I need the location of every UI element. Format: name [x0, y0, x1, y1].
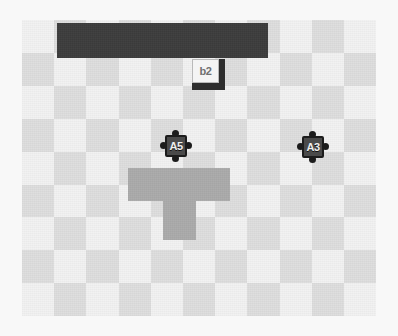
grid-cell[interactable] [280, 185, 313, 219]
grid-cell[interactable] [344, 283, 376, 316]
grid-cell[interactable] [119, 283, 152, 316]
grid-cell[interactable] [247, 119, 280, 153]
center-cross-region-tile[interactable] [128, 168, 163, 201]
grid-cell[interactable] [22, 86, 55, 120]
grid-cell[interactable] [86, 86, 119, 120]
grid-cell[interactable] [86, 152, 119, 186]
grid-cell[interactable] [215, 119, 248, 153]
token-body: A3 [302, 136, 324, 158]
grid-cell[interactable] [247, 250, 280, 284]
grid-cell[interactable] [344, 217, 376, 251]
grid-cell[interactable] [247, 217, 280, 251]
grid-cell[interactable] [22, 119, 55, 153]
token-body: A5 [165, 135, 187, 157]
grid-cell[interactable] [119, 250, 152, 284]
grid-cell[interactable] [151, 250, 184, 284]
grid-cell[interactable] [54, 217, 87, 251]
grid-cell[interactable] [86, 119, 119, 153]
grid-cell[interactable] [22, 185, 55, 219]
grid-cell[interactable] [344, 20, 376, 54]
grid-cell[interactable] [312, 185, 345, 219]
grid-cell[interactable] [54, 250, 87, 284]
grid-cell[interactable] [247, 86, 280, 120]
center-cross-region-tile[interactable] [163, 201, 196, 240]
grid-cell[interactable] [344, 250, 376, 284]
game-scene: b2 A5A3 [0, 0, 398, 336]
grid-cell[interactable] [280, 53, 313, 87]
grid-cell[interactable] [119, 217, 152, 251]
grid-cell[interactable] [312, 250, 345, 284]
grid-cell[interactable] [344, 86, 376, 120]
grid-cell[interactable] [54, 152, 87, 186]
grid-cell[interactable] [22, 217, 55, 251]
grid-cell[interactable] [22, 283, 55, 316]
token-label: A5 [169, 141, 182, 152]
grid-cell[interactable] [312, 86, 345, 120]
crate-label: b2 [200, 66, 212, 77]
center-cross-region-tile[interactable] [196, 168, 230, 201]
top-wall-bar [57, 23, 268, 58]
grid-cell[interactable] [183, 283, 216, 316]
grid-cell[interactable] [22, 53, 55, 87]
grid-cell[interactable] [151, 283, 184, 316]
grid-cell[interactable] [215, 283, 248, 316]
grid-cell[interactable] [215, 250, 248, 284]
center-cross-region-tile[interactable] [163, 168, 196, 201]
grid-cell[interactable] [215, 217, 248, 251]
grid-cell[interactable] [280, 217, 313, 251]
grid-cell[interactable] [215, 86, 248, 120]
grid-cell[interactable] [312, 217, 345, 251]
grid-cell[interactable] [280, 86, 313, 120]
grid-cell[interactable] [183, 86, 216, 120]
grid-cell[interactable] [22, 250, 55, 284]
grid-cell[interactable] [247, 152, 280, 186]
grid-cell[interactable] [247, 283, 280, 316]
grid-cell[interactable] [183, 250, 216, 284]
grid-cell[interactable] [344, 152, 376, 186]
puzzle-token-a5[interactable]: A5 [160, 130, 192, 162]
grid-cell[interactable] [119, 86, 152, 120]
grid-cell[interactable] [312, 283, 345, 316]
crate-b2[interactable]: b2 [192, 59, 225, 90]
grid-cell[interactable] [247, 185, 280, 219]
grid-cell[interactable] [86, 217, 119, 251]
grid-cell[interactable] [280, 250, 313, 284]
grid-cell[interactable] [344, 53, 376, 87]
grid-cell[interactable] [151, 86, 184, 120]
crate-face: b2 [192, 59, 219, 83]
token-label: A3 [306, 142, 319, 153]
grid-cell[interactable] [280, 283, 313, 316]
grid-cell[interactable] [344, 119, 376, 153]
grid-cell[interactable] [86, 283, 119, 316]
grid-cell[interactable] [86, 250, 119, 284]
grid-cell[interactable] [22, 20, 55, 54]
grid-cell[interactable] [54, 283, 87, 316]
grid-cell[interactable] [54, 119, 87, 153]
grid-cell[interactable] [86, 185, 119, 219]
grid-cell[interactable] [280, 20, 313, 54]
grid-cell[interactable] [344, 185, 376, 219]
grid-cell[interactable] [312, 53, 345, 87]
grid-cell[interactable] [54, 185, 87, 219]
puzzle-token-a3[interactable]: A3 [297, 131, 329, 163]
grid-cell[interactable] [54, 86, 87, 120]
grid-cell[interactable] [22, 152, 55, 186]
grid-cell[interactable] [119, 119, 152, 153]
grid-cell[interactable] [312, 20, 345, 54]
